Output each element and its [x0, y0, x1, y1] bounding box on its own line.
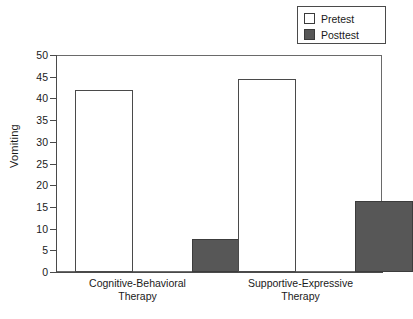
- y-axis-tick-label: 45: [4, 72, 48, 82]
- y-axis-tick-label-wrap: 20: [0, 180, 48, 190]
- y-axis-tick-label: 50: [4, 50, 48, 60]
- y-axis-tick-label: 5: [4, 245, 48, 255]
- y-axis-tick-label-wrap: 35: [0, 115, 48, 125]
- y-axis-tick: [50, 185, 57, 186]
- y-axis-tick: [50, 98, 57, 99]
- y-axis-tick-label-wrap: 40: [0, 93, 48, 103]
- y-axis-tick-label: 10: [4, 224, 48, 234]
- legend-label-pretest: Pretest: [321, 13, 354, 25]
- y-axis-tick: [50, 207, 57, 208]
- category-label-line: Therapy: [56, 290, 219, 303]
- y-axis-tick-label: 35: [4, 115, 48, 125]
- y-axis-tick: [50, 164, 57, 165]
- y-axis-tick-label: 40: [4, 93, 48, 103]
- bar-posttest-group2: [355, 201, 413, 272]
- legend-swatch-posttest: [304, 29, 315, 40]
- bar-pretest-group1: [75, 90, 133, 272]
- y-axis-tick: [50, 55, 57, 56]
- y-axis-tick-label: 30: [4, 137, 48, 147]
- y-axis-tick-label-wrap: 10: [0, 224, 48, 234]
- category-label-line: Cognitive-Behavioral: [56, 277, 219, 290]
- y-axis-tick-label-wrap: 25: [0, 159, 48, 169]
- y-axis-tick-label-wrap: 30: [0, 137, 48, 147]
- category-label-line: Supportive-Expressive: [219, 277, 382, 290]
- y-axis-tick: [50, 142, 57, 143]
- y-axis-tick-label: 15: [4, 202, 48, 212]
- y-axis-tick: [50, 229, 57, 230]
- y-axis-tick: [50, 77, 57, 78]
- y-axis-tick: [50, 120, 57, 121]
- legend-swatch-pretest: [304, 13, 315, 24]
- x-axis-line: [56, 272, 383, 273]
- category-label-line: Therapy: [219, 290, 382, 303]
- y-axis-tick-label-wrap: 5: [0, 245, 48, 255]
- chart-legend: Pretest Posttest: [297, 6, 386, 44]
- bar-pretest-group2: [238, 79, 296, 272]
- legend-item-pretest: Pretest: [304, 11, 380, 26]
- y-axis-tick-label: 20: [4, 180, 48, 190]
- y-axis-tick-label-wrap: 45: [0, 72, 48, 82]
- y-axis-tick-label: 0: [4, 267, 48, 277]
- legend-item-posttest: Posttest: [304, 27, 380, 42]
- y-axis-tick-label-wrap: 15: [0, 202, 48, 212]
- y-axis-tick-label-wrap: 0: [0, 267, 48, 277]
- y-axis-tick-label: 25: [4, 159, 48, 169]
- y-axis-tick: [50, 250, 57, 251]
- x-axis-category-label-2: Supportive-ExpressiveTherapy: [219, 277, 382, 303]
- y-axis-tick: [50, 272, 57, 273]
- y-axis-tick-label-wrap: 50: [0, 50, 48, 60]
- legend-label-posttest: Posttest: [321, 29, 359, 41]
- x-axis-category-label-1: Cognitive-BehavioralTherapy: [56, 277, 219, 303]
